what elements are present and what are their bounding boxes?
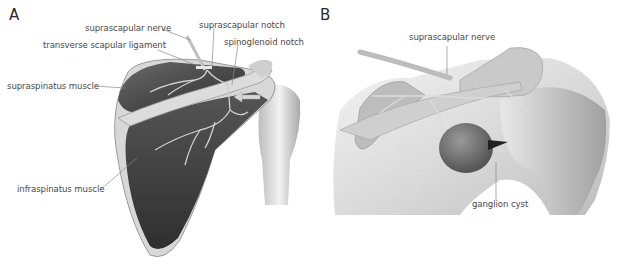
panel-label-a: A xyxy=(9,6,19,24)
label-supraspinatus-muscle: supraspinatus muscle xyxy=(7,81,99,91)
label-infraspinatus-muscle: infraspinatus muscle xyxy=(17,184,104,194)
ganglion-cyst-shape xyxy=(439,123,493,173)
label-suprascapular-nerve-b: suprascapular nerve xyxy=(409,32,495,42)
panel-b: B suprascapular nerve ganglion cyst xyxy=(310,0,618,269)
label-spinoglenoid-notch: spinoglenoid notch xyxy=(224,37,304,47)
label-transverse-scapular-ligament: transverse scapular ligament xyxy=(43,40,166,50)
panel-label-b: B xyxy=(320,6,330,24)
label-ganglion-cyst: ganglion cyst xyxy=(472,199,528,209)
panel-a: A suprascapular nerve suprascapular notc… xyxy=(0,0,310,269)
label-suprascapular-nerve: suprascapular nerve xyxy=(85,23,171,33)
label-suprascapular-notch: suprascapular notch xyxy=(199,20,285,30)
